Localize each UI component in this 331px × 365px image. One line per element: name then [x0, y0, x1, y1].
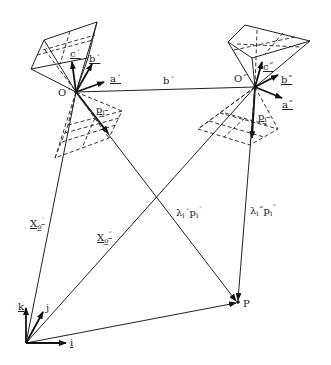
label-b2: b˝ [281, 74, 292, 85]
label-P: P [243, 298, 250, 309]
label-X0-right: Xo˝ [97, 231, 112, 245]
label-j: j [45, 302, 49, 313]
point-P [236, 300, 240, 304]
label-baseline: b´ [163, 75, 174, 86]
label-c1: c´ [70, 48, 81, 59]
vector-X0-right [26, 87, 255, 343]
label-a2: a˝ [282, 99, 293, 110]
label-i: i [70, 337, 73, 348]
label-O1: O´ [58, 87, 71, 98]
right-positive-plane [228, 25, 310, 58]
label-p2: pi˝ [258, 110, 271, 124]
label-k: k [18, 301, 25, 312]
vector-to-P [26, 303, 236, 343]
baseline [76, 87, 255, 92]
stereo-geometry-diagram: O´ a´ b´ c´ b´ pi´ O˝ a˝ b˝ c˝ pi˝ Xo´ X… [0, 0, 331, 365]
label-b1: b´ [89, 53, 100, 64]
label-X0-left: Xo´ [30, 217, 45, 231]
label-O2: O˝ [234, 73, 247, 84]
ray-left [76, 92, 236, 301]
right-camera [198, 25, 310, 145]
label-c2: c˝ [263, 61, 274, 72]
label-ray-left: λi´pi´ [176, 206, 202, 220]
label-a1: a´ [110, 73, 121, 84]
left-camera [31, 22, 122, 158]
label-ray-right: λi˝pi˝ [250, 204, 276, 218]
left-image-plane [55, 111, 122, 158]
